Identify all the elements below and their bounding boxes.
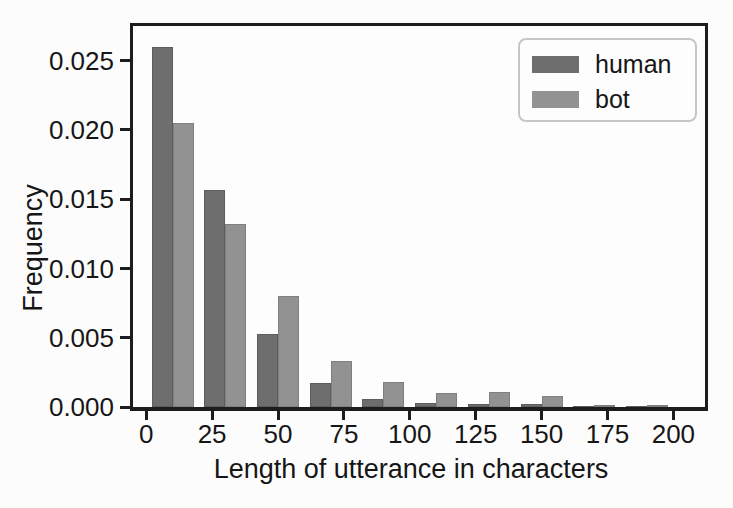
bar-human-110 [415,403,436,407]
y-tick-label: 0.005 [22,325,114,351]
bar-bot-130 [489,392,510,407]
legend-label-bot: bot [595,87,630,112]
legend-label-human: human [595,52,671,77]
y-tick-label: 0.010 [22,256,114,282]
x-axis-title: Length of utterance in characters [214,454,609,485]
bar-bot-90 [383,382,404,407]
bar-bot-70 [331,361,352,407]
bar-bot-190 [647,405,668,407]
legend-swatch-human [532,56,579,73]
bar-human-150 [521,404,542,407]
bar-human-70 [310,383,331,407]
bar-human-90 [362,399,383,407]
legend-entry-bot: bot [532,86,687,112]
bar-bot-10 [173,123,194,407]
y-tick [120,59,130,62]
bar-bot-150 [542,396,563,407]
y-tick [120,128,130,131]
bar-bot-50 [278,296,299,407]
y-tick [120,267,130,270]
bar-human-30 [204,190,225,408]
bar-bot-30 [225,224,246,407]
y-tick-label: 0.025 [22,48,114,74]
y-tick [120,198,130,201]
legend-entry-human: human [532,51,687,77]
bar-bot-170 [594,405,615,407]
bar-human-50 [257,334,278,407]
bar-human-190 [626,406,647,407]
bar-bot-110 [436,393,457,407]
y-tick [120,406,130,409]
y-tick-label: 0.020 [22,117,114,143]
y-tick [120,336,130,339]
bar-human-10 [152,47,173,407]
x-tick-label: 200 [628,421,718,447]
bar-human-170 [573,406,594,407]
legend-swatch-bot [532,91,579,108]
legend: human bot [518,38,697,122]
y-tick-label: 0.000 [22,394,114,420]
figure: Frequency Length of utterance in charact… [0,0,733,508]
y-tick-label: 0.015 [22,186,114,212]
bar-human-130 [468,404,489,407]
